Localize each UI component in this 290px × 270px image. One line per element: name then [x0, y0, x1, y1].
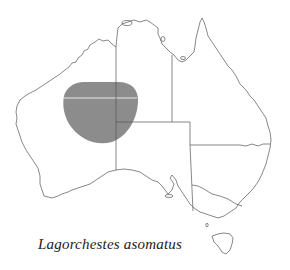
mornington-island — [181, 57, 186, 60]
mainland-outline — [16, 18, 271, 218]
king-island — [206, 223, 208, 227]
species-caption: Lagorchestes asomatus — [38, 236, 182, 253]
australia-map — [0, 0, 290, 270]
groote-eylandt — [161, 37, 165, 42]
kangaroo-island — [165, 195, 173, 198]
tasmania-outline — [212, 233, 233, 254]
nsw-vic-border — [192, 185, 242, 206]
melville-island — [122, 21, 132, 26]
distribution-range — [63, 82, 138, 143]
sa-nsw-border — [190, 145, 193, 211]
qld-nsw-border — [190, 144, 270, 146]
